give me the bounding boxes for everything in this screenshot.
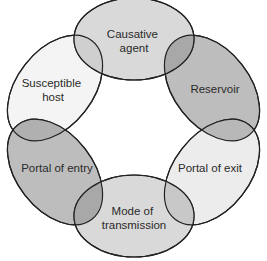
label-portal-of-exit: Portal of exit [178, 162, 243, 174]
chain-of-infection-diagram: Causative agent Reservoir Portal of exit… [0, 0, 267, 261]
label-portal-of-entry: Portal of entry [21, 162, 93, 174]
label-reservoir: Reservoir [190, 83, 239, 95]
